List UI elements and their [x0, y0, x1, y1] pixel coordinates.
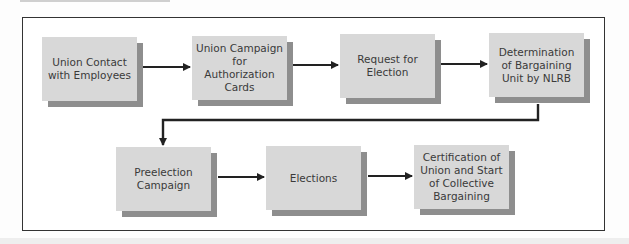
step-preelection-campaign: Preelection Campaign [116, 147, 211, 211]
step-label: Elections [286, 172, 341, 185]
step-label: Union Campaign for Authorization Cards [192, 42, 287, 94]
bottom-rule [0, 238, 629, 244]
step-label: Preelection Campaign [116, 166, 211, 192]
step-certification: Certification of Union and Start of Coll… [414, 145, 509, 209]
step-label: Request for Election [340, 53, 435, 79]
step-label: Union Contact with Employees [42, 56, 137, 82]
step-elections: Elections [266, 146, 361, 210]
step-bargaining-unit: Determination of Bargaining Unit by NLRB [489, 33, 584, 97]
step-label: Determination of Bargaining Unit by NLRB [489, 46, 584, 85]
step-label: Certification of Union and Start of Coll… [414, 151, 509, 203]
top-rule [20, 0, 170, 2]
step-authorization-campaign: Union Campaign for Authorization Cards [192, 36, 287, 100]
step-union-contact: Union Contact with Employees [42, 37, 137, 101]
step-request-election: Request for Election [340, 34, 435, 98]
